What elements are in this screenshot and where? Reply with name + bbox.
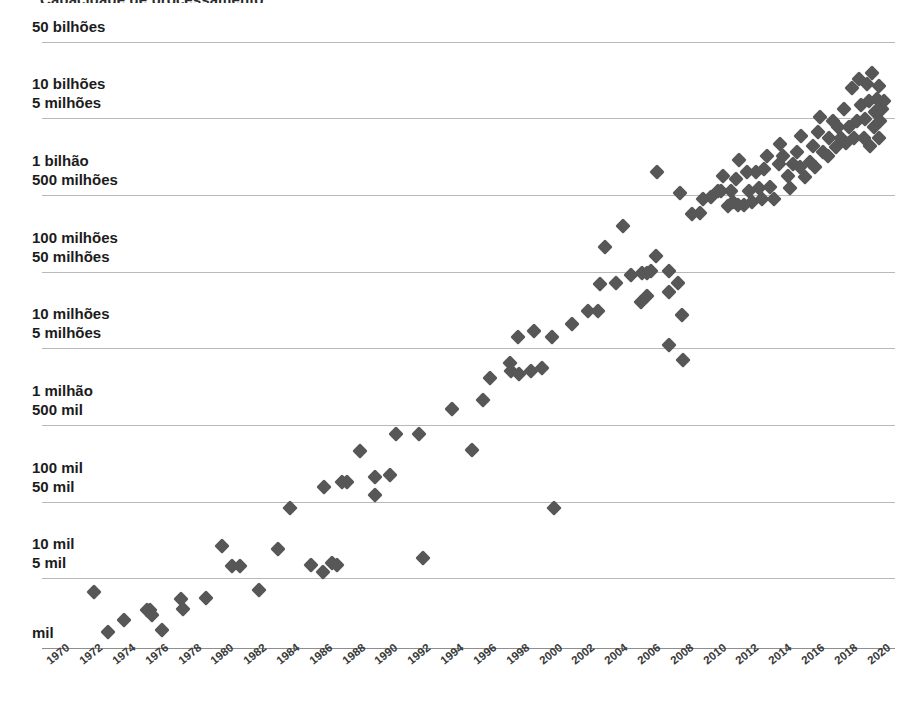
data-point: [715, 168, 731, 184]
data-point: [766, 192, 782, 208]
data-point: [661, 263, 677, 279]
y-axis-tick-line: 500 mil: [32, 400, 93, 419]
data-point: [794, 128, 810, 144]
data-point: [782, 180, 798, 196]
data-point: [215, 538, 231, 554]
y-axis-tick-label: 10 bilhões5 milhões: [32, 74, 105, 112]
data-point: [270, 541, 286, 557]
x-axis-labels: 1970197219741976197819801982198419861988…: [0, 657, 921, 701]
data-point: [352, 443, 368, 459]
data-point: [661, 338, 677, 354]
y-axis-tick-line: 50 mil: [32, 477, 83, 496]
y-axis-tick-line: 50 bilhões: [32, 17, 105, 36]
gridline: [42, 348, 895, 349]
data-point: [116, 612, 132, 628]
data-point: [648, 248, 664, 264]
gridline: [42, 118, 895, 119]
y-axis-tick-line: 10 mil: [32, 534, 75, 553]
y-axis-tick-line: 10 milhões: [32, 304, 110, 323]
y-axis-tick-label: 100 mil50 mil: [32, 458, 83, 496]
y-axis-tick-label: 10 milhões5 milhões: [32, 304, 110, 342]
chart-page: Capacidade de processamento 50 bilhões10…: [0, 0, 921, 701]
scatter-plot: 50 bilhões10 bilhões5 milhões1 bilhão500…: [0, 0, 921, 701]
data-point: [510, 329, 526, 345]
y-axis-tick-line: 1 milhão: [32, 381, 93, 400]
data-point: [482, 370, 498, 386]
data-point: [592, 276, 608, 292]
data-point: [535, 360, 551, 376]
data-point: [590, 303, 606, 319]
y-axis-tick-label: 10 mil5 mil: [32, 534, 75, 572]
y-axis-tick-line: 100 mil: [32, 458, 83, 477]
data-point: [649, 165, 665, 181]
data-point: [674, 307, 690, 323]
data-point: [812, 110, 828, 126]
gridline: [42, 42, 895, 43]
data-point: [444, 401, 460, 417]
y-axis-tick-line: 5 milhões: [32, 93, 105, 112]
gridline: [42, 502, 895, 503]
y-axis-tick-label: 1 milhão500 mil: [32, 381, 93, 419]
data-point: [615, 218, 631, 234]
gridline: [42, 425, 895, 426]
y-axis-tick-line: 500 milhões: [32, 170, 118, 189]
y-axis-tick-line: 5 mil: [32, 553, 75, 572]
y-axis-tick-line: 10 bilhões: [32, 74, 105, 93]
gridline: [42, 578, 895, 579]
data-point: [412, 426, 428, 442]
data-point: [608, 276, 624, 292]
y-axis-tick-label: mil: [32, 623, 54, 642]
data-point: [251, 582, 267, 598]
y-axis-tick-line: 1 bilhão: [32, 151, 118, 170]
data-point: [367, 469, 383, 485]
data-point: [597, 239, 613, 255]
data-point: [475, 393, 491, 409]
data-point: [389, 426, 405, 442]
y-axis-tick-label: 50 bilhões: [32, 17, 105, 36]
data-point: [100, 624, 116, 640]
data-point: [367, 487, 383, 503]
gridline: [42, 648, 895, 649]
data-point: [415, 550, 431, 566]
y-axis-tick-line: 50 milhões: [32, 247, 118, 266]
data-point: [464, 442, 480, 458]
y-axis-tick-line: mil: [32, 623, 54, 642]
data-point: [676, 353, 692, 369]
gridline: [42, 272, 895, 273]
data-point: [836, 101, 852, 117]
y-axis-tick-label: 100 milhões50 milhões: [32, 228, 118, 266]
data-point: [154, 622, 170, 638]
data-point: [672, 185, 688, 201]
data-point: [526, 324, 542, 340]
data-point: [382, 467, 398, 483]
data-point: [87, 584, 103, 600]
data-point: [316, 480, 332, 496]
y-axis-tick-line: 100 milhões: [32, 228, 118, 247]
data-point: [544, 329, 560, 345]
y-axis-tick-label: 1 bilhão500 milhões: [32, 151, 118, 189]
data-point: [198, 590, 214, 606]
data-point: [564, 316, 580, 332]
y-axis-tick-line: 5 milhões: [32, 323, 110, 342]
